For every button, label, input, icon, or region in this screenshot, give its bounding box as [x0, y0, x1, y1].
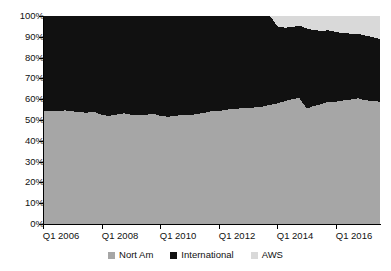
y-tick-label: 40%	[25, 136, 44, 146]
y-tick-label: 30%	[25, 157, 44, 167]
area-series-international	[43, 16, 380, 117]
legend-item-nort-am[interactable]: Nort Am	[108, 250, 153, 260]
x-tick-label: Q1 2012	[219, 230, 255, 241]
x-tick-mark	[160, 225, 161, 229]
y-tick-label: 10%	[25, 198, 44, 208]
legend-label-aws: AWS	[262, 250, 283, 260]
y-tick-label: 0%	[30, 219, 44, 229]
x-tick-mark	[336, 225, 337, 229]
x-axis-line	[43, 224, 381, 225]
legend-swatch-nort-am	[108, 252, 115, 259]
x-tick-mark	[43, 225, 44, 229]
y-tick-label: 50%	[25, 115, 44, 125]
y-tick-label: 70%	[25, 73, 44, 83]
x-tick-mark	[102, 225, 103, 229]
area-series-nort-am	[43, 98, 380, 224]
legend-swatch-international	[170, 252, 177, 259]
x-tick-label: Q1 2008	[102, 230, 138, 241]
x-tick-label: Q1 2016	[336, 230, 372, 241]
y-tick-label: 20%	[25, 177, 44, 187]
y-tick-label: 100%	[20, 11, 44, 21]
plot-area	[43, 16, 380, 224]
y-tick-label: 80%	[25, 53, 44, 63]
legend-item-aws[interactable]: AWS	[251, 250, 283, 260]
legend-label-international: International	[181, 250, 233, 260]
chart-legend: Nort Am International AWS	[0, 250, 391, 260]
legend-label-nort-am: Nort Am	[119, 250, 153, 260]
x-tick-mark	[219, 225, 220, 229]
x-tick-label: Q1 2014	[277, 230, 313, 241]
x-tick-label: Q1 2010	[160, 230, 196, 241]
x-tick-label: Q1 2006	[43, 230, 79, 241]
stacked-area-chart: 100%90%80%70%60%50%40%30%20%10%0% Q1 200…	[0, 0, 391, 271]
legend-swatch-aws	[251, 252, 258, 259]
area-series-group	[43, 16, 380, 224]
legend-item-international[interactable]: International	[170, 250, 233, 260]
y-tick-label: 90%	[25, 32, 44, 42]
y-tick-label: 60%	[25, 94, 44, 104]
x-tick-mark	[277, 225, 278, 229]
